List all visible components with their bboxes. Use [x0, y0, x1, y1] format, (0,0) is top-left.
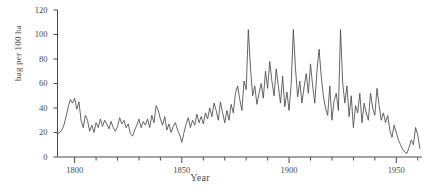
x-tick-label: 1800 — [55, 165, 95, 175]
y-tick-label: 120 — [22, 5, 48, 15]
y-tick-label: 40 — [22, 103, 48, 113]
x-tick-label: 1850 — [162, 165, 202, 175]
y-tick-label: 80 — [22, 54, 48, 64]
y-tick-label: 20 — [22, 127, 48, 137]
x-tick-label: 1900 — [269, 165, 309, 175]
y-tick-label: 100 — [22, 29, 48, 39]
y-tick-label: 60 — [22, 78, 48, 88]
chart-figure: bag per 100 ha Year 020406080100120 1800… — [0, 0, 425, 194]
data-series-line — [58, 30, 420, 154]
x-tick-label: 1950 — [376, 165, 416, 175]
y-tick-label: 0 — [22, 152, 48, 162]
